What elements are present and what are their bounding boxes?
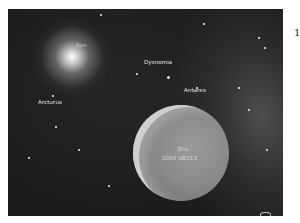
label-dysnomia: Dysnomia: [144, 59, 172, 65]
star: [52, 95, 54, 97]
eris-planet: [133, 105, 229, 201]
star: [108, 185, 110, 187]
star: [78, 149, 80, 151]
sun-glow: [32, 17, 112, 97]
star: [203, 23, 205, 25]
page-number: 1: [294, 27, 300, 38]
label-eris-designation: 2003 UB313: [162, 155, 197, 161]
dysnomia-moon: [167, 76, 170, 79]
space-illustration: Sun Dysnomia Antares Arcturus Eris 2003 …: [8, 9, 283, 216]
star: [55, 126, 57, 128]
star: [100, 14, 102, 16]
star: [258, 37, 260, 39]
label-sun: Sun: [76, 42, 87, 48]
star: [238, 87, 240, 89]
label-eris: Eris: [178, 146, 189, 152]
star: [248, 109, 250, 111]
star: [136, 73, 138, 75]
logo-icon: [260, 212, 271, 216]
star: [266, 149, 268, 151]
label-antares: Antares: [184, 87, 206, 93]
star: [28, 157, 30, 159]
star: [264, 47, 266, 49]
label-arcturus: Arcturus: [38, 99, 62, 105]
